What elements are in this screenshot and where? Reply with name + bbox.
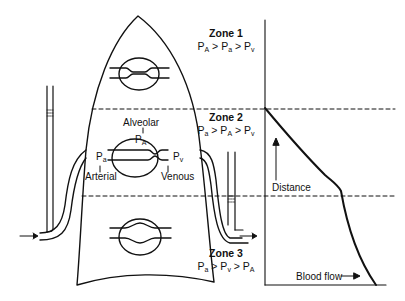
arterial-label: Arterial [85,171,117,182]
zone1-relation: PA > Pa > Pv [188,41,264,52]
distance-arrow [273,138,279,180]
alveolar-label: Alveolar [123,117,159,128]
zone2-title: Zone 2 [196,112,256,123]
alveolar-pressure-label: PA [135,134,146,145]
arterial-pressure-label: Pa [96,151,107,162]
blood-flow-arrow [341,273,360,279]
venous-pressure-label: Pv [173,151,183,162]
venous-label: Venous [161,171,194,182]
zone3-relation: Pa > Pv > PA [188,261,264,272]
arterial-manometer [47,86,53,232]
zone2-relation: Pa > PA > Pv [188,125,264,136]
flow-graph-axes [265,20,386,285]
zone1-title: Zone 1 [196,28,256,39]
distance-axis-label: Distance [272,182,311,193]
zone1-alveolus [110,58,169,90]
zone3-alveolus [110,219,171,255]
blood-flow-axis-label: Blood flow [296,271,342,282]
zone2-alveolus [100,128,168,177]
zone3-title: Zone 3 [196,248,256,259]
